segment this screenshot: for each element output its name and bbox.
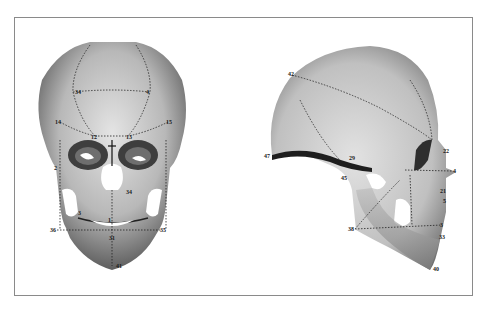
landmark-33: 33 (439, 234, 445, 240)
lateral-skull (271, 46, 456, 270)
landmark-14: 14 (55, 119, 61, 125)
landmark-36: 36 (50, 227, 56, 233)
landmark-21: 21 (440, 188, 446, 194)
landmark-1: 1 (108, 217, 111, 223)
skull-figure: 34 4 14 15 12 13 2 34 3 1 36 35 31 41 42… (0, 0, 488, 311)
landmark-5: 5 (443, 198, 446, 204)
landmark-38: 38 (348, 226, 354, 232)
landmark-2: 2 (54, 165, 57, 171)
landmark-41: 41 (116, 263, 122, 269)
landmark-34b: 34 (126, 189, 132, 195)
landmark-31: 31 (109, 235, 115, 241)
landmark-12: 12 (91, 134, 97, 140)
landmark-42: 42 (288, 71, 294, 77)
landmark-40: 40 (433, 266, 439, 272)
landmark-34: 34 (75, 89, 81, 95)
landmark-22: 22 (443, 148, 449, 154)
landmark-4-lateral: 4 (453, 168, 456, 174)
landmark-35: 35 (160, 227, 166, 233)
landmark-3: 3 (78, 210, 81, 216)
landmark-3-lateral: 3 (440, 222, 443, 228)
landmark-4: 4 (146, 89, 149, 95)
landmark-47: 47 (264, 153, 270, 159)
landmark-45: 45 (341, 175, 347, 181)
landmark-15: 15 (166, 119, 172, 125)
landmark-13: 13 (126, 134, 132, 140)
landmark-29: 29 (349, 155, 355, 161)
